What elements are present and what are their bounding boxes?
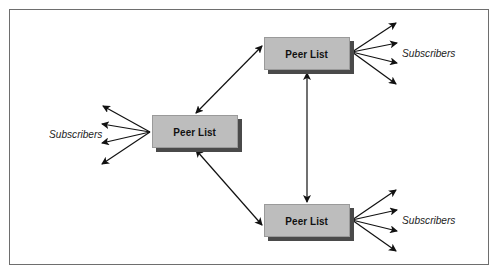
node-label: Peer List [174, 126, 217, 138]
subscribers-label-middle: Subscribers [49, 128, 102, 140]
node-box: Peer List [264, 37, 350, 70]
peer-list-node-bottom: Peer List [264, 204, 350, 237]
node-box: Peer List [264, 204, 350, 237]
fan-out-middle [102, 106, 150, 164]
peer-list-node-middle: Peer List [152, 115, 238, 148]
node-label: Peer List [286, 215, 329, 227]
fan-out-top [352, 23, 397, 84]
subscribers-label-top: Subscribers [402, 47, 455, 59]
edge-middle-bottom [196, 150, 262, 225]
diagram-canvas: Peer List Peer List Peer List Subscriber… [0, 0, 496, 274]
node-box: Peer List [152, 115, 238, 148]
peer-list-node-top: Peer List [264, 37, 350, 70]
fan-out-bottom [352, 190, 397, 251]
edge-middle-top [196, 46, 262, 113]
subscribers-label-bottom: Subscribers [402, 214, 455, 226]
node-label: Peer List [286, 48, 329, 60]
